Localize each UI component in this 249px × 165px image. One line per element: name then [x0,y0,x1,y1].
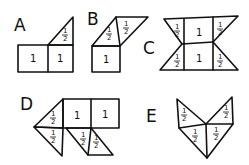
half-fraction: 1 2 [80,131,86,147]
svg-text:2: 2 [63,35,67,43]
half-fraction: 1 2 [106,26,112,42]
half-fraction: 1 2 [174,23,180,39]
svg-text:2: 2 [224,112,228,120]
half-fraction: 1 2 [217,53,223,69]
figure-c: C 1 1 1 2 1 2 1 2 1 2 [143,16,238,70]
svg-text:1: 1 [51,129,55,137]
diagonal [116,17,120,46]
unit-1: 1 [30,53,36,64]
half-triangle [34,99,63,128]
half-fraction: 1 2 [217,21,223,37]
half-triangle [34,127,63,156]
half-fraction: 1 2 [93,134,99,150]
diagonal [88,128,91,155]
svg-text:2: 2 [81,139,85,147]
half-fraction: 1 2 [50,110,56,126]
unit-1: 1 [57,53,63,64]
unit-1: 1 [74,110,80,121]
svg-text:1: 1 [107,26,111,34]
half-fraction: 1 2 [62,27,68,43]
svg-text:1: 1 [124,20,128,28]
half-fraction: 1 2 [50,129,56,145]
unit-1: 1 [196,27,202,38]
half-fraction: 1 2 [181,107,187,123]
label-b: B [87,9,99,29]
unit-1: 1 [102,109,108,120]
label-c: C [143,38,155,58]
half-fraction: 1 2 [192,128,198,144]
svg-text:1: 1 [224,104,228,112]
svg-text:2: 2 [182,115,186,123]
svg-text:2: 2 [175,31,179,39]
svg-text:2: 2 [218,61,222,69]
unit-1: 1 [103,54,109,65]
svg-text:2: 2 [94,142,98,150]
figure-d: D 1 1 1 2 1 2 1 2 1 2 [20,94,119,156]
svg-text:2: 2 [51,118,55,126]
svg-text:2: 2 [51,137,55,145]
svg-text:2: 2 [214,134,218,142]
figure-a: A 1 1 1 2 [14,15,73,72]
label-e: E [146,106,157,126]
svg-text:1: 1 [182,107,186,115]
square-row [18,45,73,72]
svg-text:2: 2 [193,136,197,144]
half-fraction: 1 2 [123,20,129,36]
figure-e: E 1 2 1 2 1 2 1 2 [146,97,233,158]
figure-b: B 1 1 2 1 2 [87,9,148,72]
label-a: A [14,15,26,35]
shapes-diagram: A 1 1 1 2 B 1 1 2 1 2 C [0,0,249,165]
svg-text:1: 1 [214,126,218,134]
svg-text:1: 1 [81,131,85,139]
svg-text:2: 2 [124,28,128,36]
svg-text:1: 1 [51,110,55,118]
half-fraction: 1 2 [223,104,229,120]
svg-text:1: 1 [218,53,222,61]
svg-text:1: 1 [94,134,98,142]
half-triangle [48,17,73,45]
svg-text:1: 1 [175,23,179,31]
svg-text:2: 2 [107,34,111,42]
svg-text:2: 2 [218,29,222,37]
center-line [206,124,207,158]
unit-1: 1 [196,53,202,64]
svg-text:2: 2 [175,61,179,69]
svg-text:1: 1 [175,53,179,61]
middle-line [182,42,213,44]
half-fraction: 1 2 [213,126,219,142]
label-d: D [20,94,33,114]
svg-text:1: 1 [63,27,67,35]
svg-text:1: 1 [193,128,197,136]
half-fraction: 1 2 [174,53,180,69]
svg-text:1: 1 [218,21,222,29]
